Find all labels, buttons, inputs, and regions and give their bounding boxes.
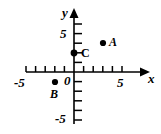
y-axis-label: y bbox=[62, 6, 68, 19]
point-label-c: C bbox=[81, 47, 90, 59]
data-point-c bbox=[71, 50, 78, 57]
axes-svg bbox=[0, 0, 161, 134]
origin-label: 0 bbox=[64, 74, 71, 87]
point-label-a: A bbox=[109, 36, 117, 48]
data-point-b bbox=[52, 79, 58, 85]
y-axis-arrowhead bbox=[70, 8, 79, 18]
y-tick-label-pos5: 5 bbox=[60, 27, 67, 40]
point-label-b: B bbox=[50, 88, 58, 100]
x-tick-label-neg5: -5 bbox=[14, 76, 25, 89]
x-axis-label: x bbox=[148, 72, 155, 85]
data-point-a bbox=[100, 40, 106, 46]
x-tick-label-pos5: 5 bbox=[117, 76, 124, 89]
coordinate-plane-figure: x y -5 5 5 -5 0 A B C bbox=[0, 0, 161, 134]
y-tick-label-neg5: -5 bbox=[55, 112, 66, 125]
